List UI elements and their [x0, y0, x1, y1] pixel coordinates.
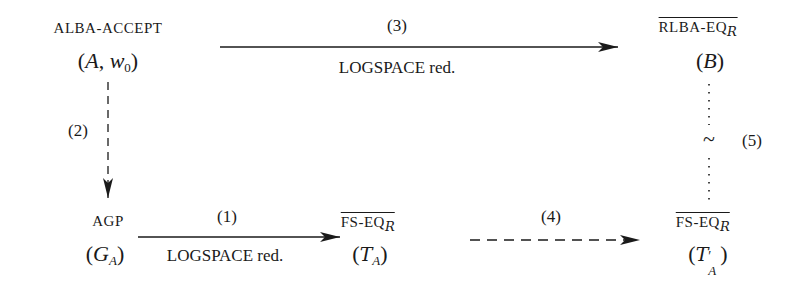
edge-3-label: LOGSPACE red. — [339, 58, 456, 78]
complement-overline: FS-EQR — [341, 212, 395, 234]
node-fs-eq-1-label: FS-EQR — [341, 212, 395, 234]
problem-name: ALBA-ACCEPT — [54, 20, 163, 36]
edge-1-label: LOGSPACE red. — [167, 246, 284, 266]
edge-4-number: (4) — [541, 207, 561, 227]
node-alba-accept-label: ALBA-ACCEPT — [54, 20, 163, 37]
edge-5-number: (5) — [742, 131, 762, 151]
node-alba-accept-instance: (A, w0) — [78, 48, 138, 76]
edge-3-number: (3) — [387, 16, 407, 36]
node-rlba-eq-instance: (B) — [696, 48, 724, 74]
complement-overline: RLBA-EQR — [659, 17, 738, 39]
node-fs-eq-2-label: FS-EQR — [676, 212, 730, 234]
node-fs-eq-2-instance: (T′A) — [688, 241, 727, 267]
edge-5-equivalence-symbol: ~ — [703, 126, 715, 152]
node-rlba-eq-label: RLBA-EQR — [659, 17, 738, 39]
node-agp-instance: (GA) — [86, 241, 125, 269]
edge-2-number: (2) — [68, 121, 88, 141]
node-fs-eq-1-instance: (TA) — [352, 241, 387, 269]
complement-overline: FS-EQR — [676, 212, 730, 234]
node-agp-label: AGP — [92, 213, 124, 230]
edge-1-number: (1) — [217, 207, 237, 227]
